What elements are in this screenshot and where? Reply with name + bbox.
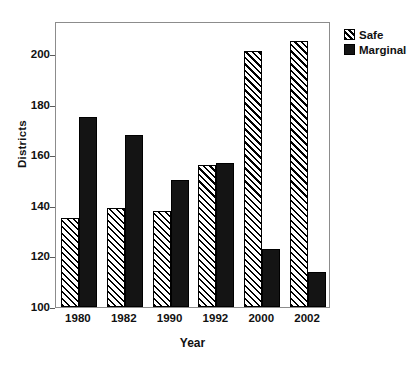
bar-marginal	[171, 180, 189, 307]
x-axis-title: Year	[55, 336, 330, 350]
bar-safe	[153, 211, 171, 307]
y-axis-tick-mark	[50, 308, 55, 309]
bar-group	[56, 23, 102, 307]
bar-group	[285, 23, 331, 307]
bar-safe	[290, 41, 308, 307]
y-axis-tick-label: 120	[16, 251, 50, 261]
y-axis-tick-label: 100	[16, 302, 50, 312]
legend-label-safe: Safe	[359, 29, 383, 41]
legend-label-marginal: Marginal	[359, 44, 406, 56]
bar-safe	[61, 218, 79, 307]
chart-legend: Safe Marginal	[344, 28, 416, 58]
bar-group	[148, 23, 194, 307]
bar-group	[194, 23, 240, 307]
bar-chart: Districts 100120140160180200 19801982199…	[0, 0, 416, 367]
bar-marginal	[79, 117, 97, 307]
bar-marginal	[308, 272, 326, 307]
legend-swatch-safe-icon	[344, 29, 355, 40]
legend-item-safe: Safe	[344, 28, 416, 41]
bar-group-container	[56, 23, 329, 307]
y-axis-tick-label: 200	[16, 49, 50, 59]
legend-swatch-marginal-icon	[344, 44, 355, 55]
bar-marginal	[262, 249, 280, 307]
y-axis-tick-label: 140	[16, 201, 50, 211]
y-axis-tick-labels: 100120140160180200	[16, 0, 50, 367]
bar-safe	[198, 165, 216, 307]
legend-item-marginal: Marginal	[344, 43, 416, 56]
x-axis-tick-label: 2002	[277, 312, 337, 324]
bar-group	[102, 23, 148, 307]
bar-marginal	[125, 135, 143, 307]
bar-safe	[107, 208, 125, 307]
bar-safe	[244, 51, 262, 307]
plot-area	[55, 22, 330, 308]
bar-group	[239, 23, 285, 307]
y-axis-tick-label: 160	[16, 150, 50, 160]
bar-marginal	[216, 163, 234, 307]
y-axis-tick-label: 180	[16, 100, 50, 110]
